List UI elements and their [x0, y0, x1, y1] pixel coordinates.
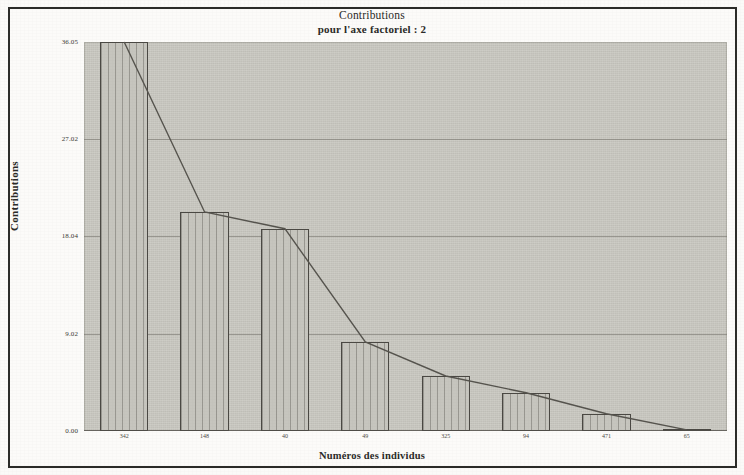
x-tick-label: 65 [684, 433, 690, 439]
x-axis-label: Numéros des individus [0, 450, 744, 461]
y-tick-label: 27.02 [62, 135, 78, 143]
x-tick-label: 49 [362, 433, 368, 439]
chart-screenshot: Contributions pour l'axe factoriel : 2 C… [0, 0, 744, 475]
y-tick-label: 9.02 [65, 330, 78, 338]
y-tick-label: 0.00 [65, 427, 78, 435]
y-tick-label: 18.04 [62, 232, 78, 240]
y-axis-ticks: 36.0527.0218.049.020.00 [30, 42, 78, 431]
x-axis-ticks: 34214840493259447165 [84, 433, 727, 447]
chart-title-block: Contributions pour l'axe factoriel : 2 [0, 8, 744, 36]
x-tick-label: 94 [523, 433, 529, 439]
plot-area [84, 42, 727, 431]
y-tick-label: 36.05 [62, 38, 78, 46]
x-tick-label: 471 [602, 433, 611, 439]
chart-subtitle: pour l'axe factoriel : 2 [0, 22, 744, 36]
axis-baseline [84, 430, 727, 431]
x-tick-label: 342 [120, 433, 129, 439]
y-axis-label: Contributions [8, 136, 20, 256]
x-tick-label: 325 [441, 433, 450, 439]
x-tick-label: 40 [282, 433, 288, 439]
chart-title: Contributions [0, 8, 744, 22]
trend-line [124, 42, 687, 430]
line-series [84, 42, 727, 431]
x-tick-label: 148 [200, 433, 209, 439]
